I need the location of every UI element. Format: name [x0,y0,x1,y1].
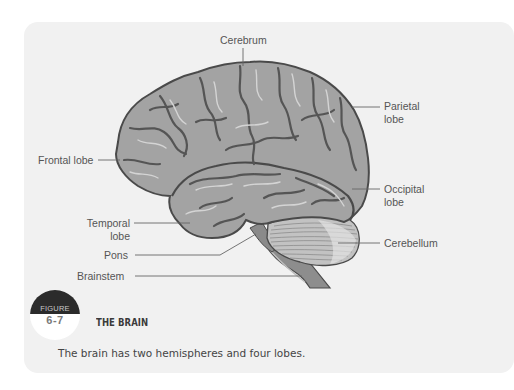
figure-caption: The brain has two hemispheres and four l… [58,347,305,359]
label-occipital-line2: lobe [384,196,404,208]
label-frontal: Frontal lobe [38,154,93,166]
figure-title: THE BRAIN [96,317,148,328]
label-parietal-line1: Parietal [384,100,420,112]
label-temporal-line2: lobe [80,230,130,242]
label-brainstem: Brainstem [77,270,124,282]
label-parietal-line2: lobe [384,113,404,125]
badge-word: FIGURE [30,304,80,313]
label-occipital-line1: Occipital [384,183,424,195]
figure-number: 6-7 [30,314,80,326]
label-cerebellum: Cerebellum [384,237,438,249]
figure-badge: FIGURE 6-7 [30,290,80,340]
label-pons: Pons [104,249,128,261]
cerebrum-shape [116,61,369,238]
label-cerebrum: Cerebrum [220,34,267,46]
label-temporal-line1: Temporal [80,217,130,229]
